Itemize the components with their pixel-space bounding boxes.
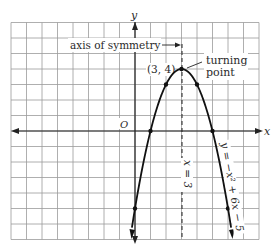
vertex-label: (3, 4) [147,63,175,75]
y-axis-up-arrow-icon [132,22,138,30]
data-point [210,129,214,133]
y-axis-down-arrow-icon [132,236,138,244]
data-point [179,67,183,71]
turning-point-pointer [187,62,202,68]
data-point [195,82,199,86]
curve-equation-label: y = −x² + 6x − 5 [219,140,247,233]
axis-of-symmetry-label: axis of symmetry [70,39,160,51]
x-axis-left-arrow-icon [11,128,19,134]
data-point [164,82,168,86]
origin-label: O [120,119,128,130]
axis-equation-label: x = 3 [182,160,194,188]
parabola-graph: x y O axis of symmetry (3, 4) turning po… [0,0,272,250]
arrow-right-icon [175,43,181,48]
data-point [148,129,152,133]
y-axis-label: y [130,9,138,22]
turning-point-label-2: point [206,66,235,79]
x-axis-label: x [264,125,271,138]
data-point [133,206,137,210]
